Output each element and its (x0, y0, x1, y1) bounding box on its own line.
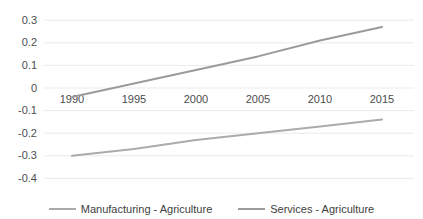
x-tick-label: 2010 (308, 93, 332, 105)
x-tick-label: 1995 (122, 93, 146, 105)
legend-entry-services-agriculture: Services - Agriculture (238, 203, 374, 215)
y-tick-label: 0 (31, 82, 37, 94)
y-tick-label: 0.1 (22, 59, 37, 71)
line-chart: 0.30.20.10-0.1-0.2-0.3-0.419901995200020… (0, 0, 423, 219)
y-tick-label: -0.2 (18, 127, 37, 139)
series-line-0 (72, 120, 382, 156)
y-tick-label: -0.4 (18, 172, 37, 184)
legend-label-services: Services - Agriculture (270, 203, 374, 215)
x-tick-label: 2015 (370, 93, 394, 105)
x-tick-label: 2005 (246, 93, 270, 105)
chart-legend: Manufacturing - Agriculture Services - A… (0, 203, 423, 215)
y-tick-label: -0.3 (18, 149, 37, 161)
legend-label-manufacturing: Manufacturing - Agriculture (81, 203, 212, 215)
y-tick-label: 0.3 (22, 14, 37, 26)
y-tick-label: -0.1 (18, 104, 37, 116)
x-tick-label: 2000 (184, 93, 208, 105)
chart-plot-area: 0.30.20.10-0.1-0.2-0.3-0.419901995200020… (0, 0, 423, 219)
series-line-1 (72, 27, 382, 97)
legend-line-marker-manufacturing (49, 208, 76, 210)
y-tick-label: 0.2 (22, 36, 37, 48)
legend-entry-manufacturing-agriculture: Manufacturing - Agriculture (49, 203, 212, 215)
legend-line-marker-services (238, 208, 265, 210)
